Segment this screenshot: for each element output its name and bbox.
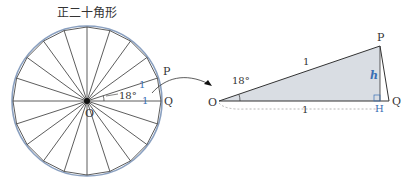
spoke-line — [44, 41, 88, 101]
triangle-figure: O P Q H h 1 1 18° — [208, 31, 401, 115]
label-angle-left: 18° — [119, 90, 137, 101]
label-h-point: H — [375, 103, 384, 114]
label-oq-length: 1 — [142, 95, 148, 106]
spoke-line — [87, 101, 147, 145]
figure-title: 正二十角形 — [57, 6, 117, 20]
spoke-line — [17, 78, 87, 101]
spoke-line — [64, 31, 87, 101]
label-q-left: Q — [164, 95, 173, 108]
label-op-length: 1 — [139, 79, 145, 90]
label-p-right: P — [377, 31, 385, 44]
spoke-line — [64, 101, 87, 171]
label-angle-right: 18° — [232, 75, 250, 86]
label-o-right: O — [208, 96, 217, 109]
spoke-line — [27, 101, 87, 145]
label-hypotenuse: 1 — [303, 56, 309, 67]
polygon-figure: O P Q 1 1 18° — [12, 26, 173, 176]
label-p-left: P — [163, 65, 171, 78]
angle-arc-left — [103, 96, 104, 101]
base-dimension — [219, 103, 378, 109]
spoke-line — [17, 101, 87, 124]
label-o-left: O — [85, 107, 94, 120]
diagram-canvas: 正二十角形 O P Q 1 1 18° O P Q H h 1 1 18° — [0, 0, 409, 184]
center-dot — [84, 98, 90, 104]
arrow-head-icon — [204, 80, 212, 86]
side-pq — [380, 46, 389, 101]
spoke-line — [27, 58, 87, 102]
label-q-right: Q — [392, 95, 401, 108]
label-height: h — [370, 69, 378, 82]
spoke-line — [87, 31, 110, 101]
spoke-line — [44, 101, 88, 161]
label-base: 1 — [302, 104, 308, 115]
